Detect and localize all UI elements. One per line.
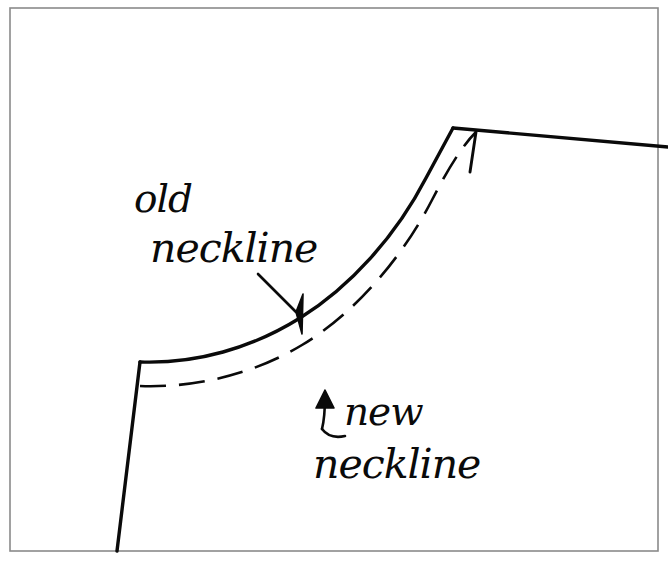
new-neckline-annotation: new neckline	[313, 389, 480, 488]
neckline-alteration-drawing: old neckline new neckline	[0, 0, 668, 562]
new-neckline-label-line2: neckline	[313, 440, 480, 488]
center-front-line	[117, 362, 140, 551]
new-neckline-label-line1: new	[344, 389, 423, 434]
shoulder-line	[453, 128, 668, 147]
old-neckline-annotation: old neckline	[134, 176, 317, 334]
old-neckline-arrow-shaft-icon	[258, 274, 296, 312]
old-neckline-label-line2: neckline	[150, 224, 317, 272]
old-neckline-label-line1: old	[134, 176, 192, 221]
old-neckline-arrow-head-icon	[296, 294, 303, 334]
new-neckline-arrow-head-icon	[316, 390, 334, 408]
new-neckline-arrow-tail-icon	[322, 429, 345, 437]
sketch-canvas: old neckline new neckline	[0, 0, 668, 562]
